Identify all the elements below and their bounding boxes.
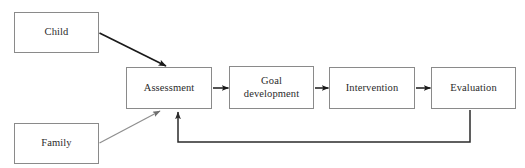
- process-flow-diagram: Child Family Assessment Goal development…: [0, 0, 525, 168]
- edge-family-to-assessment: [100, 111, 161, 143]
- edge-child-to-assessment: [100, 33, 167, 66]
- node-child[interactable]: Child: [14, 12, 99, 53]
- node-evaluation-label: Evaluation: [448, 82, 499, 94]
- node-assessment[interactable]: Assessment: [126, 67, 212, 109]
- node-intervention[interactable]: Intervention: [329, 67, 415, 109]
- node-assessment-label: Assessment: [142, 82, 197, 94]
- edge-evaluation-to-assessment-feedback: [178, 110, 470, 142]
- node-goal-development[interactable]: Goal development: [229, 66, 314, 109]
- node-family[interactable]: Family: [14, 123, 99, 164]
- node-evaluation[interactable]: Evaluation: [431, 67, 516, 109]
- node-child-label: Child: [43, 26, 71, 38]
- node-intervention-label: Intervention: [344, 82, 401, 94]
- node-family-label: Family: [39, 137, 73, 149]
- node-goal-development-label: Goal development: [242, 75, 301, 100]
